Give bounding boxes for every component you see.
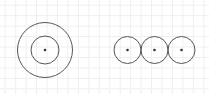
row-circle-center-dot [126,49,129,52]
diagram-canvas [0,0,209,94]
row-circle-center-dot [153,49,156,52]
center-dot [44,49,47,52]
row-circle-center-dot [180,49,183,52]
